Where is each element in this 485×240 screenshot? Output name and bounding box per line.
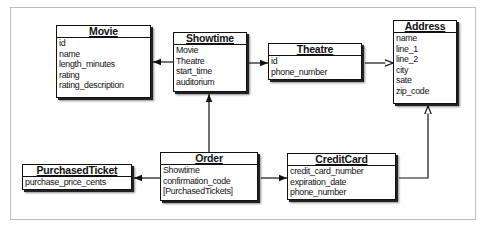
entity-field: rating_description [59,80,141,91]
entity-title: Movie [57,26,150,38]
entity-field: auditorium [176,77,239,88]
entity-field: zip_code [396,86,449,97]
entity-field: purchase_price_cents [25,177,121,188]
entity-field: phone_number [290,187,385,198]
entity-field: [PurchasedTickets] [163,186,248,197]
entity-purchased-ticket: PurchasedTicket purchase_price_cents [22,164,132,190]
entity-title: Theatre [269,44,361,56]
entity-address: Address name line_1 line_2 city sate zip… [393,20,457,104]
entity-order: Order Showtime confirmation_code [Purcha… [160,152,258,201]
entity-credit-card: CreditCard credit_card_number expiration… [287,153,396,200]
creditcard-to-address-link [399,106,428,178]
entity-field: phone_number [271,67,352,78]
entity-theatre: Theatre id phone_number [268,43,362,80]
entity-movie: Movie id name length_minutes rating rati… [56,25,151,98]
entity-showtime: Showtime Movie Theatre start_time audito… [173,32,247,92]
